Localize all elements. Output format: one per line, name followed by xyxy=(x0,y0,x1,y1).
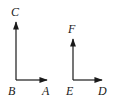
label-b: B xyxy=(8,84,16,98)
label-c: C xyxy=(11,5,20,19)
label-a: A xyxy=(41,84,50,98)
angle-fed: F E D xyxy=(65,22,107,98)
angle-cba: C B A xyxy=(8,5,50,98)
angle-diagrams: C B A F E D xyxy=(0,0,116,99)
label-e: E xyxy=(65,84,74,98)
label-f: F xyxy=(67,22,76,36)
label-d: D xyxy=(97,84,107,98)
